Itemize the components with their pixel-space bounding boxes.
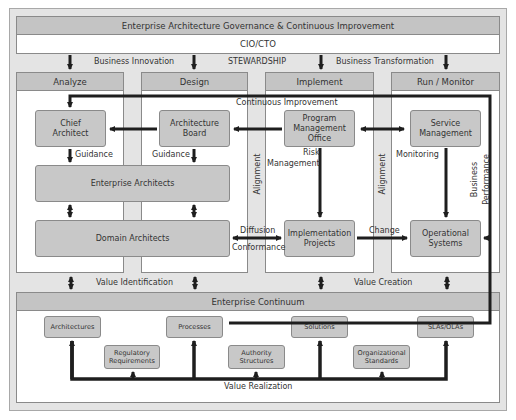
management-label: Management	[267, 159, 320, 168]
diffusion-label: Diffusion	[240, 226, 275, 235]
monitoring-label: Monitoring	[396, 150, 439, 159]
connector-arrows	[0, 0, 516, 420]
conformance-label: Conformance	[232, 243, 286, 252]
value-identification-label: Value Identification	[96, 278, 173, 287]
alignment-label-left: Alignment	[253, 155, 262, 195]
value-creation-label: Value Creation	[354, 278, 412, 287]
business-label: Business	[470, 152, 479, 208]
alignment-label-right: Alignment	[378, 155, 387, 195]
value-realization-label: Value Realization	[224, 382, 292, 391]
continuous-improvement-label: Continuous Improvement	[236, 98, 338, 107]
change-label: Change	[369, 226, 400, 235]
guidance-label-left: Guidance	[75, 150, 113, 159]
performance-label: Performance	[482, 152, 491, 208]
guidance-label-right: Guidance	[152, 150, 190, 159]
risk-label: Risk	[303, 148, 320, 157]
